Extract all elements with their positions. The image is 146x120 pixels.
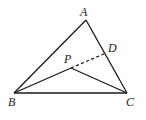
label-a: A — [79, 5, 88, 19]
label-b: B — [8, 95, 16, 109]
geometry-diagram: A B C P D — [0, 0, 146, 120]
segment-ac — [86, 20, 127, 93]
label-c: C — [126, 95, 135, 109]
diagram-svg: A B C P D — [0, 0, 146, 120]
label-p: P — [63, 52, 72, 66]
segment-pc — [71, 68, 127, 93]
segment-pd-dashed — [71, 53, 106, 68]
segment-bp — [14, 68, 71, 93]
segment-ab — [14, 20, 86, 93]
label-d: D — [107, 41, 117, 55]
